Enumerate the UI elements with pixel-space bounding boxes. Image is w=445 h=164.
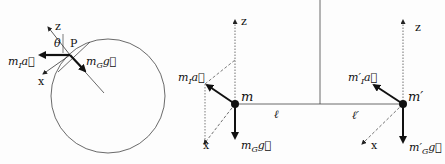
theta-label: θ — [54, 38, 61, 49]
right-inertial-arrow — [374, 85, 403, 104]
point-p-label: P — [70, 38, 77, 49]
right-gravity-label: m′Gg⃗ — [409, 142, 442, 156]
z-axis-label: z — [55, 21, 61, 32]
gravity-force-arrow — [70, 55, 85, 71]
right-mass-label: m′ — [408, 90, 423, 103]
left-arm-label: ℓ — [274, 109, 279, 120]
right-x-axis — [362, 104, 403, 144]
left-x-axis — [204, 104, 235, 144]
left-mass-label: m — [241, 90, 253, 103]
inertial-force-label: mIa⃗ — [8, 56, 35, 70]
left-mass — [231, 100, 239, 108]
left-gravity-label: mGg⃗ — [241, 140, 271, 154]
diagram: z x θ P mIa⃗ mGg⃗ z x m ℓ mIa⃗ mGg⃗ z x … — [0, 0, 445, 164]
right-inertial-label: m′Ia⃗ — [348, 72, 377, 86]
gravity-force-label: mGg⃗ — [86, 56, 116, 70]
right-arm-label: ℓ′ — [352, 110, 359, 121]
left-x-axis-label: x — [203, 140, 209, 151]
right-z-axis-label: z — [415, 22, 421, 33]
left-inertial-arrow — [207, 85, 235, 104]
diagram-graphics — [0, 0, 445, 164]
left-z-axis-label: z — [241, 16, 247, 27]
x-axis-label: x — [38, 76, 44, 87]
left-inertial-label: mIa⃗ — [178, 72, 205, 86]
right-mass — [399, 100, 407, 108]
left-proj-1 — [205, 60, 235, 84]
right-x-axis-label: x — [371, 140, 377, 151]
